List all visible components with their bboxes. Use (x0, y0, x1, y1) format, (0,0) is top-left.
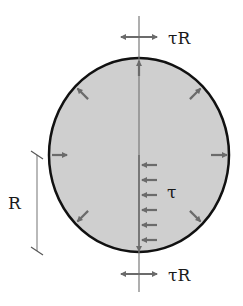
radius-dimension (31, 151, 43, 255)
bottom-resultant-label: τR (168, 265, 191, 285)
shear-stress-label: τ (167, 182, 176, 202)
diagram-canvas: τR τR τ R (0, 0, 243, 306)
top-resultant-label: τR (168, 28, 191, 48)
radius-label: R (8, 193, 22, 213)
